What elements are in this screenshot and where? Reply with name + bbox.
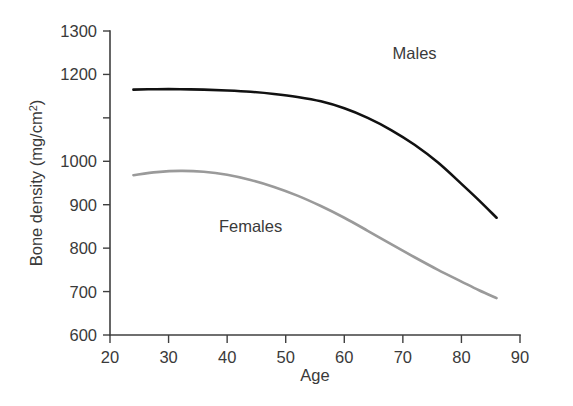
x-axis-tick-labels: 2030405060708090 — [101, 348, 529, 366]
y-axis-tick-labels: 600700800900100012001300 — [60, 22, 97, 344]
y-tick-label-1000: 1000 — [60, 152, 97, 170]
y-tick-label-800: 800 — [69, 239, 97, 257]
y-tick-label-700: 700 — [69, 283, 97, 301]
y-tick-label-1200: 1200 — [60, 65, 97, 83]
x-tick-label-70: 70 — [394, 348, 412, 366]
y-axis-group: 600700800900100012001300 — [60, 22, 110, 344]
y-axis-ticks — [103, 31, 110, 335]
y-tick-label-1300: 1300 — [60, 22, 97, 40]
x-tick-label-90: 90 — [511, 348, 529, 366]
x-tick-label-30: 30 — [159, 348, 177, 366]
x-axis-title: Age — [300, 366, 329, 384]
x-tick-label-50: 50 — [277, 348, 295, 366]
x-axis-group: 2030405060708090 — [101, 335, 529, 366]
data-series-group — [133, 89, 496, 298]
x-tick-label-40: 40 — [218, 348, 236, 366]
series-annotations: MalesFemales — [219, 44, 437, 234]
x-tick-label-80: 80 — [452, 348, 470, 366]
series-line-males — [133, 89, 496, 218]
series-line-females — [133, 171, 496, 298]
x-tick-label-60: 60 — [335, 348, 353, 366]
x-tick-label-20: 20 — [101, 348, 119, 366]
y-tick-label-900: 900 — [69, 196, 97, 214]
chart-canvas: 600700800900100012001300 203040506070809… — [0, 0, 573, 406]
y-tick-label-600: 600 — [69, 326, 97, 344]
y-axis-title: Bone density (mg/cm2) — [27, 100, 45, 267]
series-label-males: Males — [393, 44, 437, 62]
x-axis-ticks — [110, 335, 520, 343]
bone-density-chart-figure: 600700800900100012001300 203040506070809… — [0, 0, 573, 406]
series-label-females: Females — [219, 217, 282, 235]
